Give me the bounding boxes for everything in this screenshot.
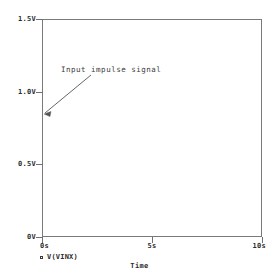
plot-canvas[interactable]: [43, 20, 262, 237]
y-tick-label-0-5v-wrap: 0.5V: [0, 160, 36, 168]
y-tick-label-1-5v-wrap: 1.5V: [0, 15, 36, 23]
y-tick-label-1-0v-wrap: 1.0V: [0, 88, 36, 96]
x-tick-label-0s: 0s: [40, 242, 49, 250]
legend[interactable]: V(VINX): [40, 253, 78, 261]
x-tick-label-10s: 10s: [252, 242, 266, 250]
y-tick-label-1-0v: 1.0V: [0, 88, 36, 96]
probe-plot-window: 1.5V 1.0V 0.5V 0V 0s 5s 10s V(VINX) Time…: [0, 0, 279, 279]
y-tick-mark: [36, 164, 43, 165]
annotation-label: Input impulse signal: [61, 65, 161, 74]
square-marker-icon: [40, 256, 43, 259]
y-tick-mark: [36, 92, 43, 93]
y-tick-label-0v: 0V: [0, 233, 36, 241]
x-tick-label-5s: 5s: [147, 242, 156, 250]
legend-entry-label[interactable]: V(VINX): [47, 253, 78, 261]
y-tick-label-1-5v: 1.5V: [0, 15, 36, 23]
y-tick-mark: [36, 19, 43, 20]
x-axis-title: Time: [0, 262, 279, 271]
y-tick-label-0-5v: 0.5V: [0, 160, 36, 168]
y-tick-label-0v-wrap: 0V: [0, 233, 36, 241]
